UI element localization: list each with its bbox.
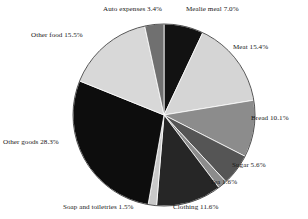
pie-label-bread: Bread 10.1% <box>251 114 289 123</box>
pie-label-other-goods: Other goods 28.3% <box>3 138 59 147</box>
pie-label-clothing: Clothing 11.6% <box>173 203 218 212</box>
pie-label-soap-and-toiletries: Soap and toiletries 1.5% <box>63 203 134 212</box>
pie-label-mealie-meal: Mealie meal 7.0% <box>186 5 239 14</box>
pie-label-auto-expenses: Auto expenses 3.4% <box>103 5 162 14</box>
pie-label-tea: Tea 1.6% <box>210 178 237 187</box>
pie-label-meat: Meat 15.4% <box>233 43 268 52</box>
pie-chart: Auto expenses 3.4% Mealie meal 7.0% Meat… <box>0 0 308 219</box>
pie-label-sugar: Sugar 5.6% <box>232 161 266 170</box>
pie-label-other-food: Other food 15.5% <box>31 31 83 40</box>
